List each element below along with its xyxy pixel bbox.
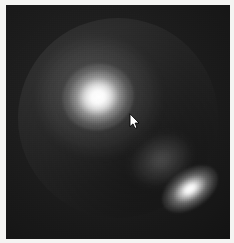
- sphere[interactable]: [18, 18, 218, 218]
- image-frame: [0, 0, 234, 243]
- render-canvas[interactable]: [6, 5, 230, 239]
